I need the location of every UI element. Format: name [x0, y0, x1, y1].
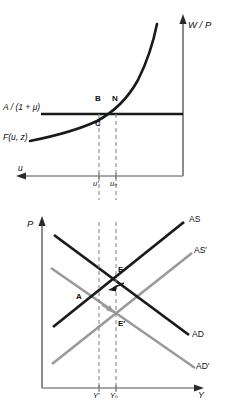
ad-prime-curve-label: AD′	[196, 362, 209, 371]
upper-y-axis-label: W / P	[188, 20, 211, 30]
point-label-e: E	[118, 266, 123, 274]
upper-x-axis-label: u	[18, 164, 23, 173]
wage-setting-curve	[30, 24, 157, 141]
upper-xtick-label-u-prime: u′	[93, 180, 99, 188]
lower-y-axis-label: P	[27, 219, 33, 229]
ad-curve-label: AD	[192, 330, 204, 339]
point-label-c: C	[95, 120, 101, 128]
lower-panel	[38, 216, 204, 392]
point-label-a: A	[76, 293, 82, 301]
lower-x-axis-label: Y	[198, 391, 204, 400]
as-prime-curve-label: AS′	[194, 246, 207, 255]
point-label-e-prime: E′	[118, 320, 125, 328]
economics-figure: W / P u A / (1 + μ) F(u, z) B N C u′ uₙ …	[0, 0, 226, 416]
adjustment-arrow-from-e	[108, 283, 124, 292]
as-curve-label: AS	[189, 215, 200, 224]
point-label-n: N	[112, 95, 118, 103]
price-setting-label: A / (1 + μ)	[3, 103, 40, 112]
upper-x-axis-arrowhead	[16, 172, 26, 179]
lower-xtick-label-y-n: Yₙ	[110, 392, 118, 400]
upper-panel	[16, 14, 187, 200]
lower-y-axis-arrowhead	[38, 216, 45, 226]
figure-canvas	[0, 0, 226, 416]
wage-setting-label: F(u, z)	[3, 133, 28, 142]
upper-y-axis-arrowhead	[179, 14, 186, 24]
lower-xtick-label-y-prime: Y′	[93, 392, 99, 400]
point-label-b: B	[95, 95, 101, 103]
upper-xtick-label-u-n: uₙ	[110, 180, 117, 188]
